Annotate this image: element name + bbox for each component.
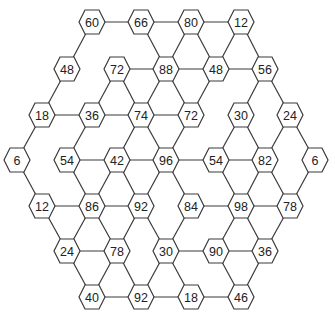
hexagon-network-diagram: 6066801248728848561836747230246544296548…	[0, 0, 335, 318]
hexagon-node: 92	[128, 194, 154, 218]
hexagon-node: 96	[153, 148, 179, 172]
hexagon-node: 24	[54, 239, 80, 263]
hexagon-node: 56	[252, 57, 278, 81]
hexagon-node: 36	[252, 239, 278, 263]
node-value: 6	[14, 154, 21, 168]
hexagon-node: 66	[128, 10, 154, 34]
node-value: 24	[60, 245, 74, 259]
node-value: 98	[234, 200, 248, 214]
node-value: 46	[234, 291, 248, 305]
node-value: 48	[60, 63, 74, 77]
node-value: 72	[184, 109, 198, 123]
node-value: 80	[184, 16, 198, 30]
node-value: 84	[184, 200, 198, 214]
hexagon-node: 90	[203, 239, 229, 263]
hexagon-node: 82	[252, 148, 278, 172]
node-value: 90	[209, 245, 223, 259]
node-value: 74	[134, 109, 148, 123]
hexagon-node: 74	[128, 103, 154, 127]
node-value: 60	[85, 16, 99, 30]
hexagon-node: 84	[178, 194, 204, 218]
node-value: 36	[258, 245, 272, 259]
node-value: 86	[85, 200, 99, 214]
node-value: 82	[258, 154, 272, 168]
hexagon-node: 42	[104, 148, 130, 172]
node-value: 56	[258, 63, 272, 77]
hexagon-node: 18	[178, 285, 204, 309]
hexagon-node: 78	[104, 239, 130, 263]
node-value: 12	[35, 200, 49, 214]
hexagon-node: 48	[203, 57, 229, 81]
node-value: 12	[234, 16, 248, 30]
node-value: 96	[159, 154, 173, 168]
node-value: 78	[110, 245, 124, 259]
hexagon-node: 72	[178, 103, 204, 127]
node-value: 40	[85, 291, 99, 305]
hexagon-node: 80	[178, 10, 204, 34]
hexagon-node: 40	[79, 285, 105, 309]
hexagon-node: 78	[277, 194, 303, 218]
hexagon-node: 30	[153, 239, 179, 263]
hexagon-node: 30	[228, 103, 254, 127]
node-value: 30	[234, 109, 248, 123]
node-value: 24	[283, 109, 297, 123]
hexagon-node: 86	[79, 194, 105, 218]
node-value: 18	[184, 291, 198, 305]
hexagon-node: 54	[203, 148, 229, 172]
hexagon-node: 98	[228, 194, 254, 218]
hexagon-node: 72	[104, 57, 130, 81]
hexagon-node: 12	[228, 10, 254, 34]
node-value: 88	[159, 63, 173, 77]
node-value: 18	[35, 109, 49, 123]
node-value: 72	[110, 63, 124, 77]
hexagon-node: 60	[79, 10, 105, 34]
node-value: 78	[283, 200, 297, 214]
node-value: 6	[312, 154, 319, 168]
node-value: 92	[134, 200, 148, 214]
node-layer: 6066801248728848561836747230246544296548…	[4, 10, 328, 309]
hexagon-node: 36	[79, 103, 105, 127]
hexagon-node: 12	[29, 194, 55, 218]
node-value: 30	[159, 245, 173, 259]
hexagon-node: 6	[302, 148, 328, 172]
hexagon-node: 88	[153, 57, 179, 81]
hexagon-node: 18	[29, 103, 55, 127]
hexagon-node: 92	[128, 285, 154, 309]
hexagon-node: 24	[277, 103, 303, 127]
hexagon-node: 54	[54, 148, 80, 172]
node-value: 42	[110, 154, 124, 168]
node-value: 36	[85, 109, 99, 123]
node-value: 66	[134, 16, 148, 30]
node-value: 48	[209, 63, 223, 77]
hexagon-node: 46	[228, 285, 254, 309]
node-value: 54	[209, 154, 223, 168]
hexagon-node: 48	[54, 57, 80, 81]
node-value: 54	[60, 154, 74, 168]
hexagon-node: 6	[4, 148, 30, 172]
node-value: 92	[134, 291, 148, 305]
